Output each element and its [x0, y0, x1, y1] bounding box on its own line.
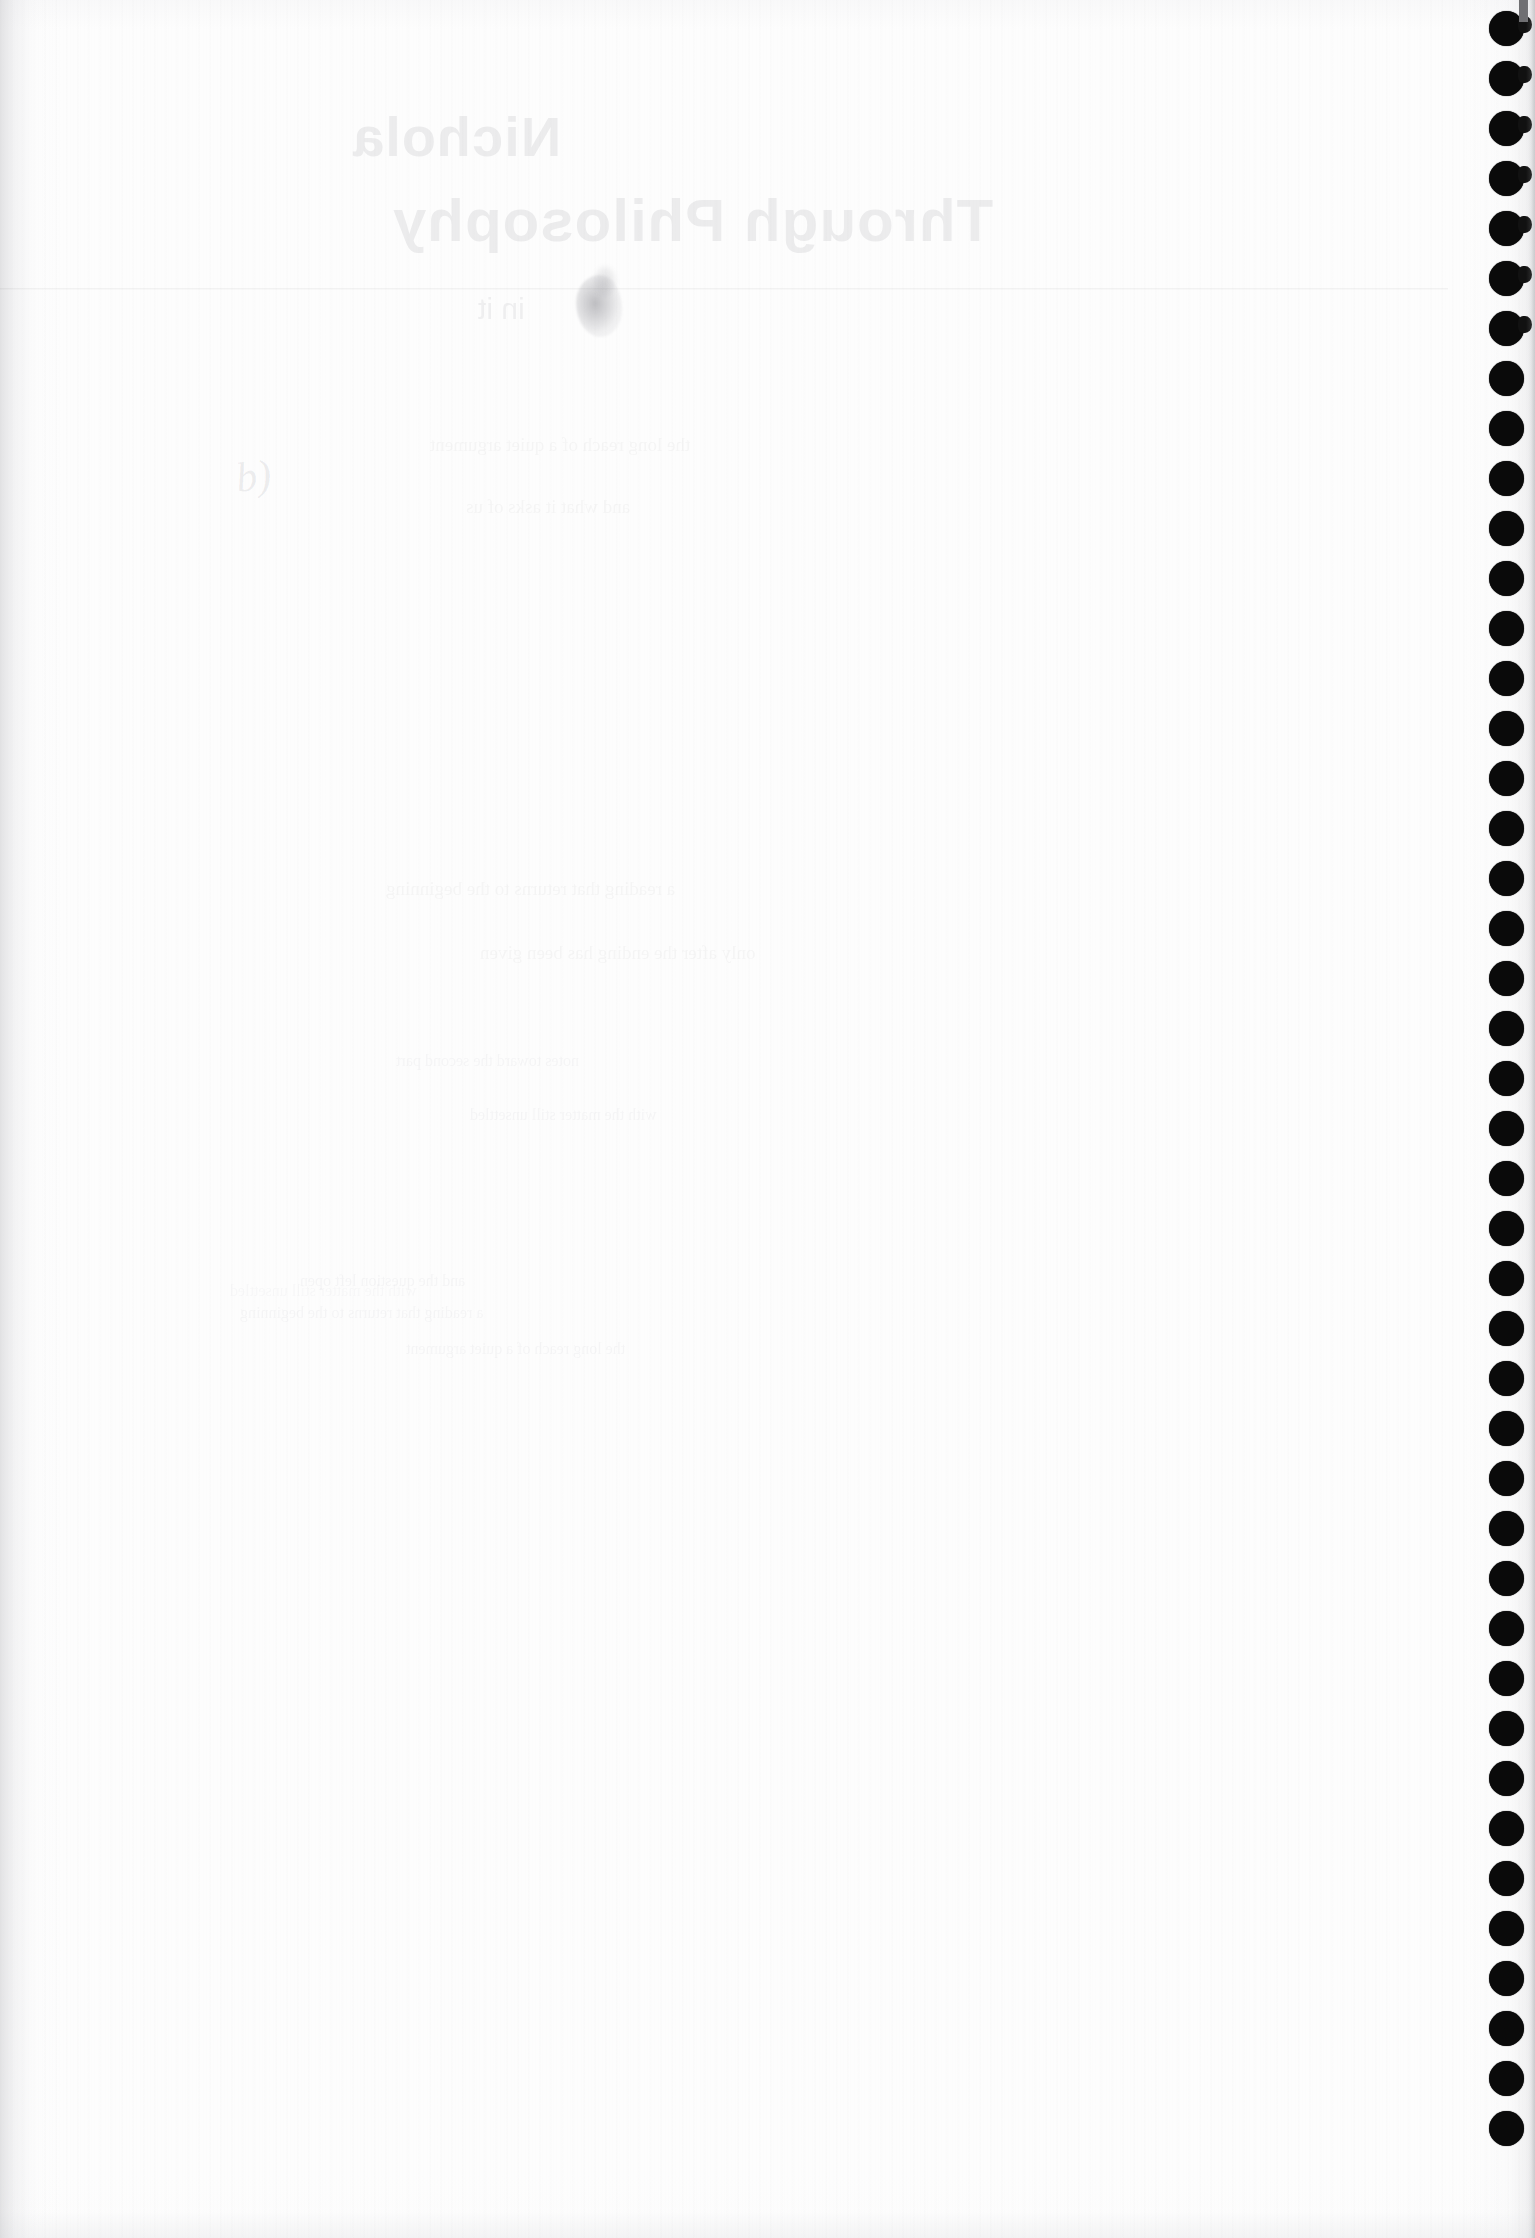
binding-top-tab — [1519, 0, 1528, 22]
scanned-page: Nichola Through Philosophy in it the lon… — [0, 0, 1535, 2238]
paper-surface — [0, 0, 1535, 2238]
